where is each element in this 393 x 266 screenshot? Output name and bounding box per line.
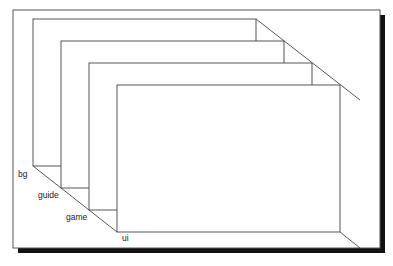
plane-label-bg: bg	[18, 169, 28, 179]
plane-ui	[117, 85, 340, 232]
frame-shadow-right	[380, 15, 385, 253]
plane-label-guide: guide	[38, 190, 59, 200]
plane-label-ui: ui	[122, 233, 129, 243]
plane-label-game: game	[66, 212, 88, 222]
layer-stack-diagram: bg guide game ui	[0, 0, 393, 266]
layer-diagram-container: bg guide game ui	[0, 0, 393, 266]
frame-shadow-bottom	[18, 248, 385, 253]
